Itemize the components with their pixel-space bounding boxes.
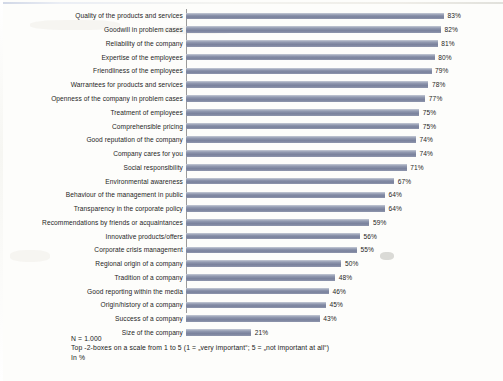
bar-category-label: Origin/history of a company: [0, 301, 186, 308]
bar: [186, 40, 438, 47]
bar-row: Transparency in the corporate policy64%: [0, 202, 503, 216]
bar-track: 81%: [186, 37, 503, 51]
bar: [186, 302, 326, 309]
bar-category-label: Behaviour of the management in public: [0, 191, 186, 198]
bar: [186, 26, 441, 33]
bar-row: Good reputation of the company74%: [0, 133, 503, 147]
bar-row: Warrantees for products and services78%: [0, 78, 503, 92]
bar-track: 74%: [186, 133, 503, 147]
bar-category-label: Environmental awareness: [0, 178, 186, 185]
bar-value-label: 50%: [345, 260, 359, 267]
bar-category-label: Good reporting within the media: [0, 288, 186, 295]
bar: [186, 109, 419, 116]
bar-track: 64%: [186, 202, 503, 216]
bar-row: Reliability of the company81%: [0, 37, 503, 51]
bar-track: 83%: [186, 9, 503, 23]
bar-value-label: 74%: [420, 150, 434, 157]
bar: [186, 205, 385, 212]
bar: [186, 81, 428, 88]
bar-track: 48%: [186, 271, 503, 285]
bar: [186, 192, 385, 199]
bar-track: 74%: [186, 147, 503, 161]
bar-track: 50%: [186, 257, 503, 271]
bar-value-label: 78%: [432, 81, 446, 88]
bar-category-label: Recommendations by friends or acquaintan…: [0, 219, 186, 226]
bar-value-label: 75%: [423, 109, 437, 116]
bar-category-label: Expertise of the employees: [0, 54, 186, 61]
bar-value-label: 64%: [388, 191, 402, 198]
bar-category-label: Friendliness of the employees: [0, 67, 186, 74]
bar: [186, 95, 425, 102]
bar-track: 67%: [186, 174, 503, 188]
bar-value-label: 80%: [438, 54, 452, 61]
bar-row: Behaviour of the management in public64%: [0, 188, 503, 202]
bar: [186, 274, 335, 281]
bar-row: Treatment of employees75%: [0, 105, 503, 119]
bar: [186, 68, 432, 75]
bar-row: Openness of the company in problem cases…: [0, 92, 503, 106]
bar-row: Quality of the products and services83%: [0, 9, 503, 23]
bar: [186, 164, 407, 171]
bar-category-label: Comprehensible pricing: [0, 123, 186, 130]
bar-category-label: Transparency in the corporate policy: [0, 205, 186, 212]
bar-track: 82%: [186, 23, 503, 37]
bar: [186, 54, 435, 61]
chart-page: Quality of the products and services83%G…: [0, 0, 503, 381]
bar-row: Innovative products/offers56%: [0, 229, 503, 243]
bar: [186, 288, 329, 295]
bar-value-label: 79%: [435, 67, 449, 74]
bar-value-label: 43%: [323, 315, 337, 322]
bar-track: 80%: [186, 50, 503, 64]
bar: [186, 247, 357, 254]
bar-category-label: Treatment of employees: [0, 109, 186, 116]
bar-category-label: Corporate crisis management: [0, 246, 186, 253]
bar-row: Expertise of the employees80%: [0, 50, 503, 64]
bar-value-label: 55%: [360, 246, 374, 253]
bar-category-label: Regional origin of a company: [0, 260, 186, 267]
bar: [186, 219, 369, 226]
bar-track: 78%: [186, 78, 503, 92]
bar-category-label: Openness of the company in problem cases: [0, 95, 186, 102]
bar-value-label: 83%: [448, 12, 462, 19]
bar-category-label: Innovative products/offers: [0, 233, 186, 240]
bar-row: Social responsibility71%: [0, 160, 503, 174]
bar-value-label: 59%: [373, 219, 387, 226]
bar-category-label: Social responsibility: [0, 164, 186, 171]
bar-track: 45%: [186, 298, 503, 312]
bar-track: 75%: [186, 105, 503, 119]
bar-category-label: Warrantees for products and services: [0, 81, 186, 88]
bar: [186, 178, 394, 185]
bar-category-label: Goodwill in problem cases: [0, 26, 186, 33]
bar-track: 43%: [186, 312, 503, 326]
bar-value-label: 48%: [339, 274, 353, 281]
bar-row: Environmental awareness67%: [0, 174, 503, 188]
scan-artifact-top-line: [0, 2, 503, 4]
bar-track: 79%: [186, 64, 503, 78]
bar: [186, 123, 419, 130]
bar-category-label: Tradition of a company: [0, 274, 186, 281]
bar-category-label: Reliability of the company: [0, 40, 186, 47]
bar-track: 71%: [186, 160, 503, 174]
bar-category-label: Good reputation of the company: [0, 136, 186, 143]
bar: [186, 233, 360, 240]
bar-row: Success of a company43%: [0, 312, 503, 326]
bar-chart-plot-area: Quality of the products and services83%G…: [0, 9, 503, 319]
bar: [186, 13, 444, 20]
bar-category-label: Quality of the products and services: [0, 12, 186, 19]
bar-row: Tradition of a company48%: [0, 271, 503, 285]
bar: [186, 136, 416, 143]
bar-row: Corporate crisis management55%: [0, 243, 503, 257]
footnote-unit: In %: [71, 353, 329, 362]
bar-value-label: 64%: [388, 205, 402, 212]
bar-row: Goodwill in problem cases82%: [0, 23, 503, 37]
chart-footnotes: N = 1.000 Top -2-boxes on a scale from 1…: [71, 334, 329, 362]
bar-value-label: 71%: [410, 164, 424, 171]
bar-value-label: 75%: [423, 123, 437, 130]
bar-track: 55%: [186, 243, 503, 257]
bar-value-label: 67%: [398, 178, 412, 185]
bar-value-label: 45%: [329, 301, 343, 308]
bar-track: 46%: [186, 284, 503, 298]
bar-value-label: 81%: [441, 40, 455, 47]
bar-row: Comprehensible pricing75%: [0, 119, 503, 133]
bar-category-label: Company cares for you: [0, 150, 186, 157]
